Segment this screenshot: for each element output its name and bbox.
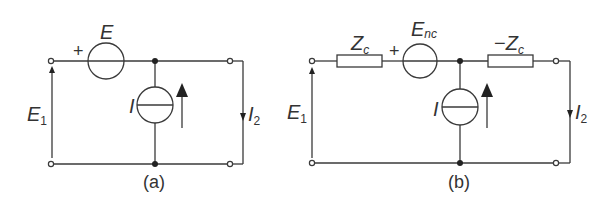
terminal-b-in-bottom: [309, 160, 314, 165]
circuit-b: Zc + Enc −Zc I E1 I2: [287, 18, 588, 192]
junction-node-b-top: [457, 58, 463, 64]
caption-b: (b): [448, 172, 470, 192]
junction-node-a-bottom: [152, 161, 158, 167]
circuit-diagrams: + E I E1 I2 (a): [0, 0, 611, 205]
current-source-i-icon-b: [442, 89, 478, 125]
label-e: E: [100, 21, 114, 43]
voltage-arrow-head-icon-a: [49, 66, 55, 73]
label-enc: Enc: [411, 18, 437, 41]
polarity-plus-a: +: [73, 41, 84, 61]
terminal-a-out-top: [227, 58, 232, 63]
voltage-source-e-icon: [88, 43, 124, 79]
voltage-source-enc-icon: [403, 44, 437, 78]
caption-a: (a): [143, 172, 165, 192]
label-e1-a: E1: [27, 103, 47, 128]
voltage-arrow-head-icon-b: [309, 67, 315, 74]
output-current-arrow-icon-a: [240, 113, 246, 121]
terminal-b-out-top: [553, 58, 558, 63]
impedance-zc-icon: [337, 55, 382, 67]
junction-node-a-top: [152, 58, 158, 64]
label-neg-zc: −Zc: [494, 32, 524, 57]
current-direction-arrow-icon-a: [176, 83, 188, 97]
terminal-a-in-bottom: [48, 161, 53, 166]
impedance-neg-zc-icon: [488, 55, 533, 67]
current-source-i-icon-a: [137, 87, 173, 123]
label-i-b: I: [433, 98, 439, 120]
junction-node-b-bottom: [457, 160, 463, 166]
label-e1-b: E1: [287, 101, 307, 126]
current-direction-arrow-icon-b: [481, 83, 493, 97]
label-i2-b: I2: [575, 101, 588, 126]
output-current-arrow-icon-b: [567, 110, 573, 118]
terminal-a-in-top: [48, 58, 53, 63]
terminal-b-in-top: [309, 58, 314, 63]
label-zc: Zc: [350, 32, 369, 57]
terminal-a-out-bottom: [227, 161, 232, 166]
polarity-plus-b: +: [389, 41, 400, 61]
circuit-a: + E I E1 I2 (a): [27, 21, 261, 192]
label-i2-a: I2: [248, 103, 261, 128]
label-i-a: I: [129, 95, 135, 117]
terminal-b-out-bottom: [553, 160, 558, 165]
